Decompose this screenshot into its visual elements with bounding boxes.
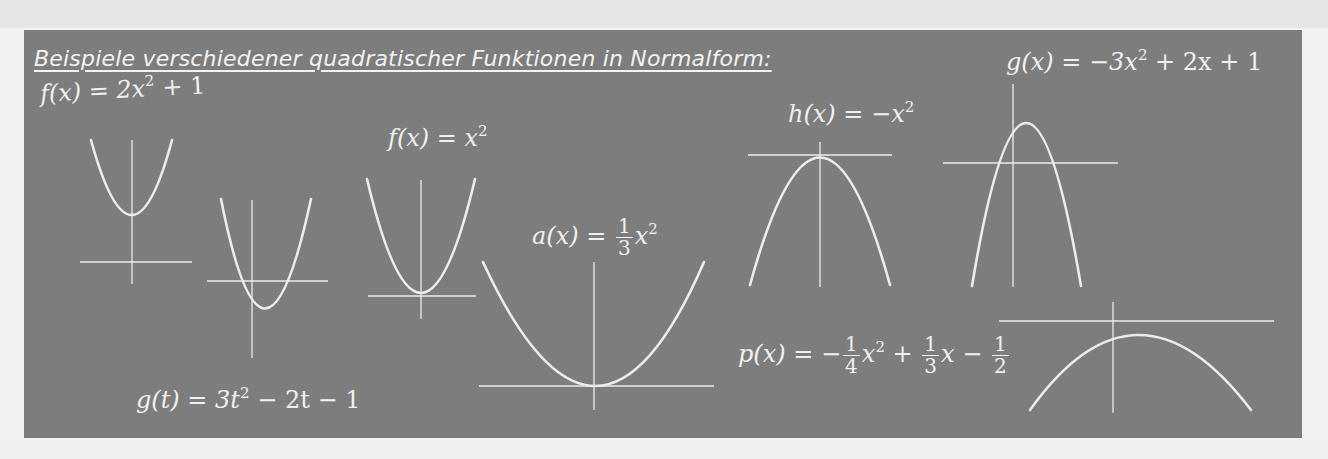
graph-f2 [367, 179, 476, 319]
graph-g-x [943, 84, 1118, 287]
graph-f1 [80, 140, 192, 284]
graph-h [748, 142, 892, 287]
formula-g-t-rest: − 2t − 1 [250, 386, 361, 414]
formula-g-t: g(t) = 3t2 − 2t − 1 [136, 388, 360, 412]
formula-g-x-main: g(x) = −3x [1006, 48, 1138, 76]
formula-a-lhs: a(x) = [532, 222, 614, 250]
graph-p [999, 302, 1274, 413]
graph-a [479, 262, 714, 410]
fraction-one-quarter: 14 [843, 334, 860, 377]
formula-h: h(x) = −x2 [788, 102, 914, 126]
graphs-canvas [24, 30, 1302, 438]
chalkboard: Beispiele verschiedener quadratischer Fu… [24, 30, 1302, 438]
formula-h-exp: 2 [905, 98, 915, 116]
formula-f2: f(x) = x2 [388, 126, 488, 150]
fraction-one-third-p: 13 [922, 334, 939, 377]
formula-a-var: x [635, 222, 649, 250]
formula-g-t-main: g(t) = 3t [136, 386, 240, 414]
formula-h-main: h(x) = −x [788, 100, 905, 128]
formula-g-x: g(x) = −3x2 + 2x + 1 [1006, 50, 1262, 74]
formula-a-exp: 2 [648, 220, 658, 238]
formula-p: p(x) = −14x2 + 13x − 12 [738, 334, 1011, 377]
formula-g-x-rest: + 2x + 1 [1147, 48, 1262, 76]
formula-f1-main: f(x) = 2x [39, 75, 146, 108]
page-top-strip [0, 0, 1328, 28]
formula-a: a(x) = 13x2 [532, 216, 658, 259]
formula-f2-main: f(x) = x [388, 124, 478, 152]
graph-g-t [207, 199, 328, 358]
page-bottom-strip [0, 440, 1328, 459]
formula-g-t-exp: 2 [240, 384, 250, 402]
board-title: Beispiele verschiedener quadratischer Fu… [34, 46, 772, 71]
fraction-one-half: 12 [992, 334, 1009, 377]
formula-f2-exp: 2 [478, 122, 488, 140]
fraction-one-third: 13 [616, 216, 633, 259]
formula-f1-rest: + 1 [154, 71, 206, 102]
formula-p-lhs: p(x) = − [738, 340, 841, 368]
